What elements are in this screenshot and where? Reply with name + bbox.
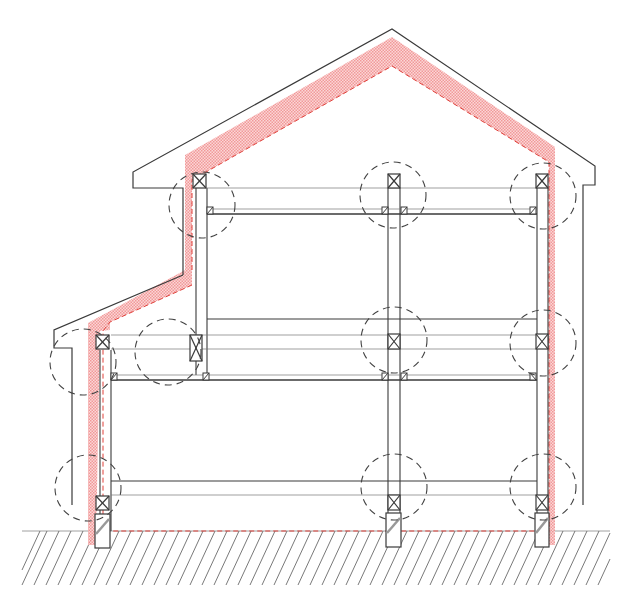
beam-sections [96, 174, 548, 510]
beam-section-mid-left [96, 335, 109, 349]
footing-right [535, 513, 549, 547]
beam-section-mid-middle [388, 334, 400, 349]
columns [100, 188, 548, 531]
detail-circle-upper-right [510, 163, 576, 229]
floor-beams [111, 188, 537, 495]
joist-sections [111, 207, 536, 380]
detail-circles [50, 162, 576, 521]
footing-middle [386, 513, 401, 547]
house-section-diagram [0, 0, 631, 599]
beam-section-mid-right [536, 334, 548, 349]
footing-left [95, 514, 110, 548]
insulation-envelope [88, 37, 555, 545]
detail-circle-mid-left-eave [50, 329, 116, 395]
beam-section-upper-right [536, 174, 548, 188]
beam-section-upper-left [193, 174, 206, 188]
beam-section-base-middle [388, 495, 400, 510]
beam-section-base-right [536, 495, 548, 510]
beam-section-base-left [96, 496, 109, 510]
detail-circle-upper-middle [360, 162, 426, 228]
beam-section-upper-middle [388, 174, 400, 188]
